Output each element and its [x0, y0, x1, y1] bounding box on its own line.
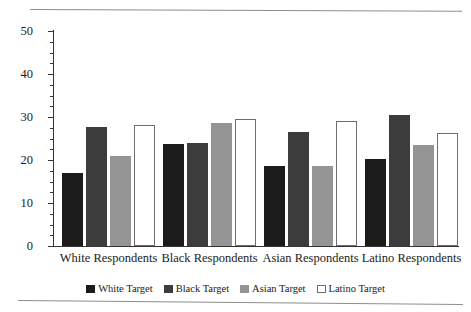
legend-item: Asian Target — [240, 284, 305, 295]
bar — [163, 144, 184, 246]
bar-group — [62, 31, 155, 246]
legend-item: White Target — [86, 284, 153, 295]
bar — [62, 173, 83, 246]
bar — [187, 143, 208, 246]
chart-legend: White TargetBlack TargetAsian TargetLati… — [0, 284, 471, 295]
y-axis-tick-label: 40 — [21, 68, 34, 81]
bar — [235, 119, 256, 246]
legend-swatch-icon — [240, 285, 249, 293]
top-divider-rule — [30, 9, 462, 12]
x-axis-category-labels: White RespondentsBlack RespondentsAsian … — [54, 252, 458, 272]
bar — [336, 121, 357, 246]
y-axis-major-tick — [48, 246, 54, 247]
bar — [437, 133, 458, 246]
legend-item: Black Target — [164, 284, 229, 295]
bar — [288, 132, 309, 246]
legend-label: Latino Target — [329, 284, 385, 295]
bar-group — [365, 31, 458, 246]
y-axis-tick-label: 0 — [27, 240, 33, 253]
y-axis-tick-label: 30 — [21, 111, 34, 124]
bar — [264, 166, 285, 246]
bottom-divider-rule — [18, 300, 463, 305]
y-axis-tick-label: 10 — [21, 197, 34, 210]
plot-area — [54, 31, 458, 246]
bar — [389, 115, 410, 246]
x-axis-category-label: White Respondents — [60, 252, 158, 265]
legend-label: Asian Target — [252, 284, 305, 295]
bar-group — [163, 31, 256, 246]
x-axis-category-label: Asian Respondents — [262, 252, 358, 265]
bar — [365, 159, 386, 246]
legend-swatch-icon — [164, 285, 173, 293]
bar — [312, 166, 333, 246]
legend-item: Latino Target — [317, 284, 385, 295]
x-axis-category-label: Black Respondents — [161, 252, 257, 265]
bar — [86, 127, 107, 246]
x-axis-line — [53, 246, 459, 247]
y-axis-ticks — [45, 31, 54, 246]
legend-swatch-icon — [317, 285, 326, 293]
bar — [413, 145, 434, 246]
legend-label: White Target — [98, 284, 153, 295]
bar — [211, 123, 232, 246]
legend-label: Black Target — [176, 284, 229, 295]
bar-chart-figure: 50403020100 White RespondentsBlack Respo… — [0, 0, 471, 312]
x-axis-category-label: Latino Respondents — [362, 252, 462, 265]
y-axis-tick-label: 50 — [21, 25, 34, 38]
y-axis-tick-labels: 50403020100 — [0, 31, 45, 246]
y-axis-tick-label: 20 — [21, 154, 34, 167]
bar — [134, 125, 155, 246]
bar — [110, 156, 131, 246]
bar-group — [264, 31, 357, 246]
legend-swatch-icon — [86, 285, 95, 293]
